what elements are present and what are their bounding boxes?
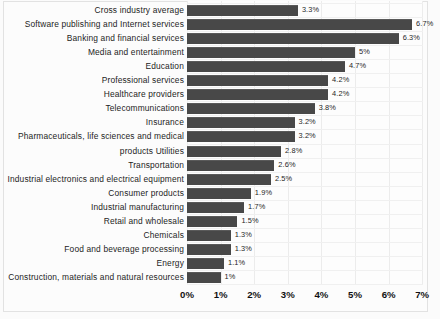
bar-row: Construction, materials and natural reso…: [0, 271, 440, 285]
category-label: Food and beverage processing: [0, 243, 184, 255]
category-label: Retail and wholesale: [0, 215, 184, 227]
bar: [187, 230, 231, 241]
category-label: Consumer products: [0, 187, 184, 199]
bar-value-label: 1.3%: [235, 229, 252, 241]
bar-value-label: 4.7%: [349, 60, 366, 72]
bar-value-label: 6.3%: [403, 32, 420, 44]
category-label: Industrial electronics and electrical eq…: [0, 173, 184, 185]
bar-row: Chemicals1.3%: [0, 229, 440, 243]
category-label: Chemicals: [0, 229, 184, 241]
bar: [187, 202, 244, 213]
bar-value-label: 1%: [225, 271, 236, 283]
bar-row: products Utilities2.8%: [0, 145, 440, 159]
category-label: Banking and financial services: [0, 32, 184, 44]
bar-row: Food and beverage processing1.3%: [0, 243, 440, 257]
bar-row: Cross industry average3.3%: [0, 4, 440, 18]
bar: [187, 5, 298, 16]
x-axis: 0%1%2%3%4%5%6%7%: [0, 288, 440, 304]
category-label: Industrial manufacturing: [0, 201, 184, 213]
bar-value-label: 4.2%: [332, 88, 349, 100]
bar-value-label: 1.9%: [255, 187, 272, 199]
category-label: Media and entertainment: [0, 46, 184, 58]
bar: [187, 47, 355, 58]
bar-value-label: 3.2%: [299, 130, 316, 142]
category-label: Pharmaceuticals, life sciences and medic…: [0, 130, 184, 142]
bar-value-label: 6.7%: [416, 18, 433, 30]
bar-row: Pharmaceuticals, life sciences and medic…: [0, 130, 440, 144]
bar-chart: Cross industry average3.3%Software publi…: [0, 0, 440, 319]
category-label: Insurance: [0, 116, 184, 128]
category-label: Software publishing and Internet service…: [0, 18, 184, 30]
category-label: Healthcare providers: [0, 88, 184, 100]
bar-row: Media and entertainment5%: [0, 46, 440, 60]
bar-row: Software publishing and Internet service…: [0, 18, 440, 32]
bar-value-label: 1.1%: [228, 257, 245, 269]
category-label: products Utilities: [0, 145, 184, 157]
bar-value-label: 2.5%: [275, 173, 292, 185]
bar-value-label: 1.7%: [248, 201, 265, 213]
bar-rows: Cross industry average3.3%Software publi…: [0, 0, 440, 285]
bar-value-label: 2.6%: [278, 159, 295, 171]
bar-row: Consumer products1.9%: [0, 187, 440, 201]
category-label: Telecommunications: [0, 102, 184, 114]
bar: [187, 19, 412, 30]
bar: [187, 131, 295, 142]
bar-value-label: 1.3%: [235, 243, 252, 255]
bar-value-label: 1.5%: [241, 215, 258, 227]
bar-value-label: 3.8%: [319, 102, 336, 114]
bar-row: Professional services4.2%: [0, 74, 440, 88]
bar-row: Transportation2.6%: [0, 159, 440, 173]
bar: [187, 117, 295, 128]
bar-row: Telecommunications3.8%: [0, 102, 440, 116]
bar: [187, 216, 237, 227]
bar-row: Energy1.1%: [0, 257, 440, 271]
bar: [187, 174, 271, 185]
bar-value-label: 4.2%: [332, 74, 349, 86]
bar-row: Education4.7%: [0, 60, 440, 74]
bar-row: Insurance3.2%: [0, 116, 440, 130]
bar-row: Industrial manufacturing1.7%: [0, 201, 440, 215]
bar-value-label: 5%: [359, 46, 370, 58]
bar: [187, 89, 328, 100]
bar: [187, 75, 328, 86]
bar: [187, 103, 315, 114]
bar-value-label: 2.8%: [285, 145, 302, 157]
bar: [187, 33, 399, 44]
bar-value-label: 3.2%: [299, 116, 316, 128]
bar: [187, 160, 274, 171]
bar-row: Banking and financial services6.3%: [0, 32, 440, 46]
bar-row: Retail and wholesale1.5%: [0, 215, 440, 229]
bar-row: Healthcare providers4.2%: [0, 88, 440, 102]
x-axis-tick-label: 7%: [402, 288, 440, 302]
bar: [187, 188, 251, 199]
category-label: Professional services: [0, 74, 184, 86]
bar-value-label: 3.3%: [302, 4, 319, 16]
bar: [187, 258, 224, 269]
bar: [187, 146, 281, 157]
bar: [187, 61, 345, 72]
bar: [187, 244, 231, 255]
category-label: Cross industry average: [0, 4, 184, 16]
category-label: Transportation: [0, 159, 184, 171]
category-label: Energy: [0, 257, 184, 269]
bar-row: Industrial electronics and electrical eq…: [0, 173, 440, 187]
category-label: Education: [0, 60, 184, 72]
bar: [187, 272, 221, 283]
category-label: Construction, materials and natural reso…: [0, 271, 184, 283]
